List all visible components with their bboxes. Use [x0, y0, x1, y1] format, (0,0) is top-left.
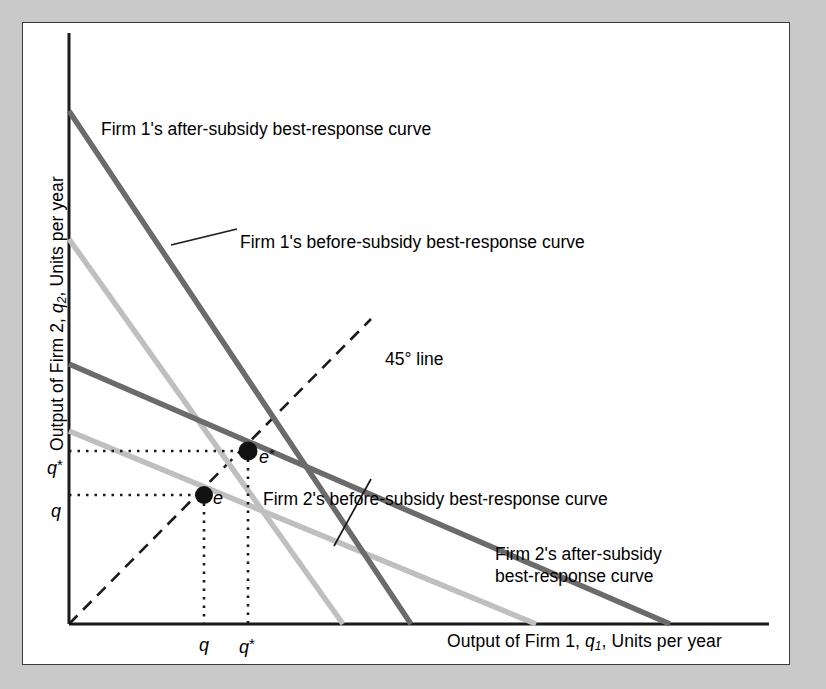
point-label-e-star-symbol: e [259, 447, 269, 467]
x-tick-q-star-symbol: q [239, 637, 249, 657]
y-tick-q-star-symbol: q [47, 458, 57, 478]
figure-panel: Output of Firm 2, q2, Units per year Out… [22, 22, 790, 665]
forty-five-degree-line [69, 319, 371, 624]
point-label-e: e [213, 488, 223, 509]
x-tick-label-q-star: q* [239, 635, 255, 658]
y-tick-label-q-star: q* [47, 456, 63, 479]
label-firm2-before-subsidy-curve: Firm 2's before-subsidy best-response cu… [263, 488, 608, 510]
label-firm2-after-line1: Firm 2's after-subsidy [495, 544, 662, 564]
x-axis-title-subscript: 1 [595, 639, 602, 653]
label-firm1-before-subsidy-curve: Firm 1's before-subsidy best-response cu… [240, 231, 585, 253]
x-tick-q-star-asterisk: * [249, 635, 255, 652]
y-tick-label-q: q [51, 501, 61, 522]
x-axis-title: Output of Firm 1, q1, Units per year [447, 631, 722, 653]
x-tick-label-q: q [199, 635, 209, 656]
label-firm2-after-subsidy-curve: Firm 2's after-subsidybest-response curv… [495, 543, 725, 588]
y-axis-title-prefix: Output of Firm 2, [47, 313, 67, 451]
y-axis-title-subscript: 2 [55, 296, 69, 303]
label-firm1-after-subsidy-curve: Firm 1's after-subsidy best-response cur… [101, 118, 431, 140]
y-tick-q-star-asterisk: * [57, 456, 63, 473]
y-axis-title-suffix: , Units per year [47, 176, 67, 296]
firm1-before-subsidy-curve [69, 239, 343, 624]
leader-line-firm1-before [171, 229, 237, 245]
equilibrium-point-e-star [239, 442, 258, 461]
y-axis-title-symbol: q [47, 303, 67, 313]
label-firm2-after-line2: best-response curve [495, 566, 654, 586]
equilibrium-point-e [195, 486, 213, 504]
point-label-e-star-asterisk: * [269, 445, 275, 462]
point-label-e-star: e* [259, 445, 275, 468]
x-axis-title-prefix: Output of Firm 1, [447, 631, 585, 651]
x-axis-title-suffix: , Units per year [602, 631, 722, 651]
y-axis-title: Output of Firm 2, q2, Units per year [47, 176, 69, 451]
label-forty-five-degree-line: 45° line [385, 348, 444, 370]
x-axis-title-symbol: q [585, 631, 595, 651]
firm1-after-subsidy-curve [69, 111, 411, 624]
